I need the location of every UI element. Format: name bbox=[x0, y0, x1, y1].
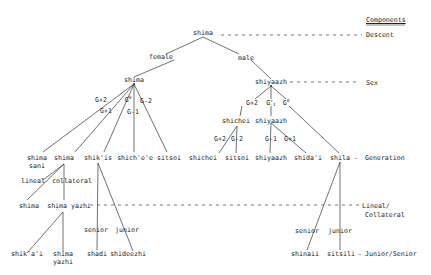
node-shima-lineal: shima bbox=[19, 202, 39, 210]
level-lineal: Lineal/ bbox=[362, 202, 390, 210]
node-shideezhi: shideezhi bbox=[110, 250, 146, 258]
edge-to-shila bbox=[289, 106, 339, 153]
components-heading: Components bbox=[366, 16, 406, 24]
edge-label-shichei-g-minus-2: G-2 bbox=[231, 135, 243, 143]
node-shikis: shik'is bbox=[84, 154, 112, 162]
node-shiyaazh-mid: shiyaazh bbox=[255, 117, 287, 125]
edge-shideezhi bbox=[98, 163, 133, 251]
label-lineal: lineal bbox=[21, 177, 45, 185]
level-descent: Descent bbox=[366, 31, 394, 39]
node-sitsoi-male: sitsoi bbox=[225, 154, 249, 162]
node-shima-yazhi-bottom-line2: yazhi bbox=[53, 258, 73, 266]
level-sex: Sex bbox=[366, 79, 378, 87]
label-senior-right: senior bbox=[295, 227, 319, 235]
label-junior-right: junior bbox=[328, 227, 352, 235]
label-junior-left: junior bbox=[115, 226, 139, 234]
male-edge-label-g-plus-2: G+2 bbox=[246, 99, 258, 107]
junior-senior-dash: - bbox=[358, 250, 362, 258]
node-shima-sani-line2: sani bbox=[29, 162, 45, 170]
male-edge-label-g-zero: G0 bbox=[283, 99, 290, 107]
edge-male-shiyaazh bbox=[251, 60, 271, 79]
label-male: male bbox=[238, 54, 254, 62]
level-generation: Generation bbox=[365, 154, 405, 162]
node-sitsoi-female: sitsoi bbox=[157, 154, 181, 162]
kinship-diagram: Components Descent Sex Generation Lineal… bbox=[0, 0, 431, 275]
generation-dash: - bbox=[354, 154, 358, 162]
edge-male-g-plus-2 bbox=[255, 86, 271, 99]
edge-label-g-zero: G0 bbox=[125, 96, 132, 104]
node-shima-gen: shima bbox=[54, 154, 74, 162]
node-root-shima: shima bbox=[193, 29, 213, 37]
edge-root-male bbox=[203, 37, 239, 54]
label-senior-left: senior bbox=[84, 226, 108, 234]
node-female-shima: shima bbox=[124, 76, 144, 84]
level-junior-senior: Junior/Senior bbox=[365, 250, 417, 258]
edge-label-g-plus-1: G+1 bbox=[100, 107, 112, 115]
edge-label-g-minus-2: G-2 bbox=[140, 97, 152, 105]
edge-shichei-stem bbox=[240, 106, 242, 116]
level-collateral: Collateral bbox=[365, 211, 405, 219]
edge-shikai bbox=[27, 212, 63, 253]
node-shichei-mid: shichei bbox=[222, 117, 250, 125]
node-shidai: shida'i bbox=[294, 154, 322, 162]
edge-label-shiyaazh-g-plus-1: G+1 bbox=[284, 135, 296, 143]
edge-label-shichei-g-plus-2: G+2 bbox=[214, 135, 226, 143]
edge-g-minus-2 bbox=[134, 84, 167, 152]
node-shikai: shik'a'i bbox=[11, 250, 43, 258]
node-shinaii: shinaii bbox=[291, 250, 319, 258]
node-shima-yazhi-bottom-line1: shima bbox=[53, 250, 73, 258]
node-shiyaazh-gen: shiyaazh bbox=[255, 154, 287, 162]
edge-label-shiyaazh-g-minus-1: G-1 bbox=[265, 135, 277, 143]
edge-label-g-minus-1: G-1 bbox=[127, 108, 139, 116]
edge-label-g-plus-2: G+2 bbox=[95, 96, 107, 104]
edge-g-plus-2 bbox=[43, 84, 134, 152]
edge-male-g-zero bbox=[271, 86, 286, 99]
edge-shadi bbox=[97, 163, 98, 250]
edge-root-female bbox=[166, 37, 203, 54]
label-collateral: collateral bbox=[52, 177, 92, 185]
node-shichei-gen: shichei bbox=[189, 154, 217, 162]
node-shichee: shich'e'e bbox=[117, 154, 153, 162]
node-shila: shila bbox=[330, 154, 350, 162]
node-shima-sani-line1: shima bbox=[27, 154, 47, 162]
edge-g-plus-1 bbox=[75, 84, 134, 152]
edge-female-shima bbox=[134, 60, 174, 77]
node-shadi: shadi bbox=[87, 250, 107, 258]
node-shima-yazhi-collateral: shima yazhi bbox=[47, 202, 91, 210]
label-female: female bbox=[149, 53, 173, 61]
male-edge-label-g-pm-1: G+-1 bbox=[266, 99, 275, 107]
node-male-shiyaazh: shiyaazh bbox=[255, 78, 287, 86]
node-sitsili: sitsili bbox=[327, 250, 355, 258]
edge-shinaii bbox=[307, 162, 340, 250]
